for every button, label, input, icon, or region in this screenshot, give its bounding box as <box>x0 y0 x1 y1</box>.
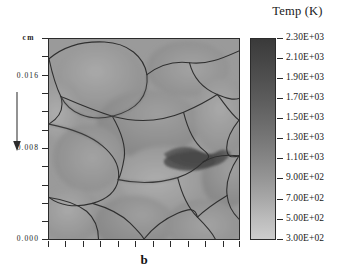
colorbar-label-1: 2.10E+03 <box>286 52 324 62</box>
colorbar-label-0: 2.30E+03 <box>286 32 324 42</box>
grain-temperature-map <box>48 38 240 240</box>
colorbar-label-2: 1.90E+03 <box>286 72 324 82</box>
y-axis-unit-label: cm <box>23 33 35 42</box>
colorbar-label-10: 3.00E+02 <box>286 233 324 243</box>
colorbar-label-7: 9.00E+02 <box>286 172 324 182</box>
y-axis-label-0: 0.016 <box>17 71 39 80</box>
colorbar-label-5: 1.30E+03 <box>286 132 324 142</box>
figure-caption: b <box>48 252 240 268</box>
colorbar-label-9: 5.00E+02 <box>286 213 324 223</box>
depth-down-arrow-icon <box>10 92 24 152</box>
colorbar-title: Temp (K) <box>248 4 347 19</box>
y-axis-ticks <box>42 38 48 240</box>
colorbar-label-3: 1.70E+03 <box>286 92 324 102</box>
colorbar-gradient <box>251 39 275 239</box>
x-axis-ticks <box>48 241 240 247</box>
colorbar-ticks <box>277 38 283 240</box>
y-axis-label-2: 0.000 <box>17 234 39 243</box>
colorbar-label-4: 1.50E+03 <box>286 112 324 122</box>
grain-structure-svg <box>49 39 239 239</box>
colorbar-labels: 2.30E+03 2.10E+03 1.90E+03 1.70E+03 1.50… <box>286 38 347 240</box>
colorbar <box>250 38 276 240</box>
temperature-field-figure: Temp (K) <box>0 0 347 279</box>
colorbar-label-6: 1.10E+03 <box>286 152 324 162</box>
colorbar-label-8: 7.00E+02 <box>286 193 324 203</box>
